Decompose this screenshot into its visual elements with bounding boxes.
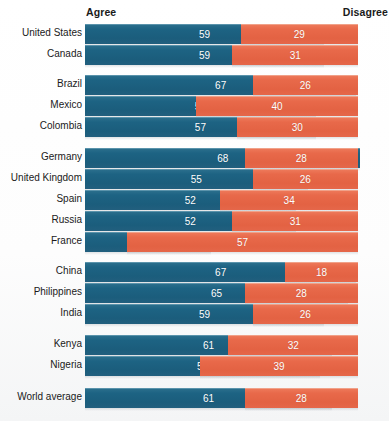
row-label: France — [51, 235, 82, 246]
bar-disagree: 28 — [245, 283, 358, 303]
row-label: Colombia — [40, 120, 82, 131]
bar-disagree: 40 — [196, 96, 358, 116]
bar-value-agree: 67 — [215, 81, 226, 91]
bar-shadow — [253, 324, 358, 327]
bar-value-disagree: 34 — [284, 196, 295, 206]
bar-value-agree: 59 — [199, 310, 210, 320]
table-row: United States5929 — [0, 24, 389, 44]
bar-value-disagree: 28 — [296, 289, 307, 299]
table-row: Kenya6132 — [0, 335, 389, 355]
bar-value-disagree: 31 — [290, 51, 301, 61]
row-label: India — [60, 307, 82, 318]
bar-shadow — [245, 408, 358, 411]
bar-value-disagree: 26 — [300, 81, 311, 91]
row-label: Spain — [56, 193, 82, 204]
bar-value-disagree: 29 — [294, 30, 305, 40]
table-row: Nigeria5839 — [0, 356, 389, 376]
bar-disagree: 39 — [200, 356, 358, 376]
table-row: China6718 — [0, 262, 389, 282]
bar-disagree: 28 — [245, 148, 358, 168]
table-row: Mexico5740 — [0, 96, 389, 116]
bar-disagree: 29 — [241, 24, 358, 44]
row-label: Kenya — [54, 338, 82, 349]
bar-disagree: 26 — [253, 75, 358, 95]
bar-disagree: 18 — [285, 262, 358, 282]
bar-shadow — [237, 137, 359, 140]
row-label: United Kingdom — [11, 172, 82, 183]
bar-disagree: 57 — [127, 232, 358, 252]
bar-disagree: 26 — [253, 304, 358, 324]
table-row: Colombia5730 — [0, 117, 389, 137]
table-row: India5926 — [0, 304, 389, 324]
bar-value-agree: 59 — [199, 30, 210, 40]
bar-value-agree: 59 — [199, 51, 210, 61]
table-row: Brazil6726 — [0, 75, 389, 95]
bar-value-disagree: 26 — [300, 310, 311, 320]
bar-disagree: 26 — [253, 169, 358, 189]
bar-value-agree: 61 — [203, 394, 214, 404]
bar-value-agree: 52 — [185, 217, 196, 227]
bar-value-disagree: 32 — [288, 341, 299, 351]
bar-value-agree: 65 — [211, 289, 222, 299]
chart-container: Agree Disagree United States5929Canada59… — [0, 0, 389, 421]
bar-value-agree: 67 — [215, 268, 226, 278]
bar-value-disagree: 30 — [292, 123, 303, 133]
row-label: Germany — [41, 151, 82, 162]
row-label: Brazil — [57, 78, 82, 89]
bar-value-disagree: 31 — [290, 217, 301, 227]
bar-disagree: 31 — [232, 45, 358, 65]
bar-disagree: 32 — [228, 335, 358, 355]
row-label: Nigeria — [50, 359, 82, 370]
row-label: Mexico — [50, 99, 82, 110]
row-label: China — [56, 265, 82, 276]
bar-value-agree: 68 — [217, 154, 228, 164]
chart-legend-header: Agree Disagree — [0, 6, 389, 22]
bar-value-agree: 55 — [191, 175, 202, 185]
bar-value-agree: 57 — [195, 123, 206, 133]
legend-label-agree: Agree — [86, 6, 116, 18]
bar-disagree: 34 — [220, 190, 358, 210]
bar-shadow — [127, 252, 358, 255]
bar-value-agree: 61 — [203, 341, 214, 351]
bar-value-disagree: 28 — [296, 154, 307, 164]
legend-label-disagree: Disagree — [343, 6, 388, 18]
bar-disagree: 28 — [245, 388, 358, 408]
row-label: Russia — [51, 214, 82, 225]
table-row: Spain5234 — [0, 190, 389, 210]
bar-value-agree: 52 — [185, 196, 196, 206]
table-row: World average6128 — [0, 388, 389, 408]
bar-value-disagree: 57 — [237, 238, 248, 248]
table-row: Germany6828 — [0, 148, 389, 168]
bar-value-disagree: 18 — [316, 268, 327, 278]
bar-value-disagree: 28 — [296, 394, 307, 404]
row-label: United States — [22, 27, 82, 38]
table-row: United Kingdom5526 — [0, 169, 389, 189]
row-label: World average — [17, 391, 82, 402]
bar-value-disagree: 40 — [271, 102, 282, 112]
bar-disagree: 30 — [237, 117, 359, 137]
bar-shadow — [232, 65, 358, 68]
bar-disagree: 31 — [232, 211, 358, 231]
table-row: France3157 — [0, 232, 389, 252]
table-row: Philippines6528 — [0, 283, 389, 303]
table-row: Canada5931 — [0, 45, 389, 65]
bar-shadow — [200, 376, 358, 379]
row-label: Canada — [47, 48, 82, 59]
bar-value-disagree: 39 — [273, 362, 284, 372]
bar-value-disagree: 26 — [300, 175, 311, 185]
table-row: Russia5231 — [0, 211, 389, 231]
row-label: Philippines — [34, 286, 82, 297]
